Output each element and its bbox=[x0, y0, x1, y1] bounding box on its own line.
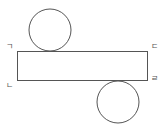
label-bottom-left: ㄴ bbox=[6, 82, 13, 90]
bottom-base-circle bbox=[97, 81, 139, 123]
cylinder-net-diagram bbox=[0, 0, 166, 129]
top-base-circle bbox=[29, 9, 71, 51]
label-top-right: ㄷ bbox=[151, 43, 158, 51]
lateral-surface-rectangle bbox=[18, 52, 148, 81]
label-bottom-right: ㄹ bbox=[151, 75, 158, 83]
label-top-left: ㄱ bbox=[6, 43, 13, 51]
